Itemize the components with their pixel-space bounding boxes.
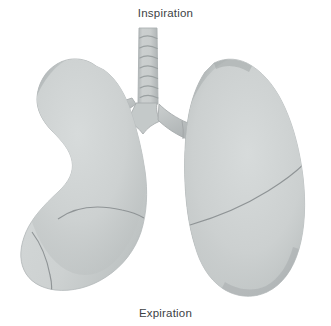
trachea [138, 28, 158, 104]
left-lung [14, 51, 147, 297]
right-lung [177, 56, 313, 300]
diagram-canvas: Inspiration [0, 0, 331, 326]
right-main-bronchus [158, 104, 190, 140]
expiration-label: Expiration [0, 307, 331, 319]
lungs-illustration [0, 0, 331, 326]
right-bronchus-tube [158, 104, 190, 140]
left-lung-inner-shading [23, 55, 147, 275]
